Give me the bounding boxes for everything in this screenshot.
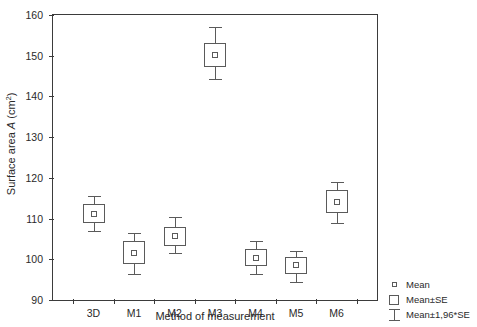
whisker-upper: [337, 182, 338, 190]
mean-marker: [334, 199, 340, 205]
y-axis-title-superscript: 2: [3, 96, 12, 100]
whisker-cap-upper: [250, 241, 263, 242]
ci-whisker-icon: [386, 309, 402, 321]
y-axis-title-prefix: Surface area: [5, 129, 17, 195]
whisker-lower: [215, 67, 216, 79]
y-axis-tick: 100: [49, 259, 54, 260]
whisker-cap-lower: [209, 79, 222, 80]
y-axis-tick-label: 100: [25, 253, 43, 266]
y-axis-tick-label: 110: [26, 213, 43, 226]
y-axis-title: Surface area A (cm2): [2, 0, 18, 287]
whisker-lower: [94, 223, 95, 230]
whisker-lower: [175, 246, 176, 253]
mean-marker: [131, 250, 137, 256]
y-axis-tick-label: 120: [25, 172, 43, 185]
box-plot-figure: Surface area A (cm2) 9010011012013014015…: [0, 0, 477, 327]
whisker-lower: [296, 274, 297, 282]
x-axis-tick: [154, 299, 155, 304]
x-axis-tick: [357, 299, 358, 304]
mean-marker: [253, 255, 259, 261]
mean-marker-icon: [386, 282, 402, 287]
whisker-cap-lower: [88, 231, 101, 232]
legend-item-mean: Mean: [386, 277, 470, 292]
whisker-cap-lower: [128, 274, 141, 275]
y-axis-tick: 90: [49, 300, 54, 301]
y-axis-tick: 140: [49, 96, 54, 97]
whisker-upper: [215, 27, 216, 42]
plot-area: 901001101201301401501603DM1M2M3M4M5M6: [52, 14, 378, 301]
x-axis-tick: [73, 299, 74, 304]
x-axis-tick: [114, 299, 115, 304]
y-axis-title-variable: A: [5, 121, 17, 128]
y-axis-tick: 120: [49, 178, 54, 179]
x-axis-tick: [195, 299, 196, 304]
legend-label-ci: Mean±1,96*SE: [406, 309, 470, 320]
whisker-upper: [94, 196, 95, 204]
y-axis-tick: 150: [49, 56, 54, 57]
whisker-cap-upper: [169, 217, 182, 218]
y-axis-tick-label: 90: [31, 294, 43, 307]
legend-item-se: Mean±SE: [386, 292, 470, 307]
whisker-cap-upper: [128, 233, 141, 234]
legend-label-se: Mean±SE: [406, 294, 448, 305]
whisker-cap-lower: [290, 282, 303, 283]
whisker-lower: [337, 213, 338, 222]
mean-marker: [172, 233, 178, 239]
x-axis-tick: [276, 299, 277, 304]
chart-legend: Mean Mean±SE Mean±1,96*SE: [386, 277, 470, 322]
y-axis-tick: 110: [49, 219, 54, 220]
x-axis-title: Method of measurement: [52, 310, 378, 322]
whisker-cap-lower: [331, 223, 344, 224]
whisker-lower: [256, 266, 257, 274]
mean-marker: [91, 211, 97, 217]
whisker-upper: [256, 241, 257, 249]
legend-item-ci: Mean±1,96*SE: [386, 307, 470, 322]
y-axis-tick-label: 150: [25, 50, 43, 63]
whisker-cap-lower: [169, 253, 182, 254]
whisker-cap-upper: [209, 27, 222, 28]
y-axis-title-unit: (cm: [5, 100, 17, 121]
y-axis-tick-label: 130: [25, 131, 43, 144]
whisker-cap-upper: [88, 196, 101, 197]
legend-label-mean: Mean: [406, 279, 430, 290]
mean-marker: [293, 262, 299, 268]
y-axis-tick: 160: [49, 15, 54, 16]
whisker-lower: [134, 264, 135, 274]
x-axis-tick: [235, 299, 236, 304]
whisker-upper: [134, 233, 135, 241]
whisker-upper: [175, 217, 176, 226]
y-axis-tick-label: 160: [25, 9, 43, 22]
y-axis-tick: 130: [49, 137, 54, 138]
whisker-cap-lower: [250, 274, 263, 275]
mean-marker: [212, 52, 218, 58]
se-box-icon: [386, 295, 402, 305]
whisker-cap-upper: [331, 182, 344, 183]
whisker-cap-upper: [290, 251, 303, 252]
y-axis-title-suffix: ): [5, 92, 17, 96]
x-axis-tick: [316, 299, 317, 304]
y-axis-tick-label: 140: [25, 90, 43, 103]
